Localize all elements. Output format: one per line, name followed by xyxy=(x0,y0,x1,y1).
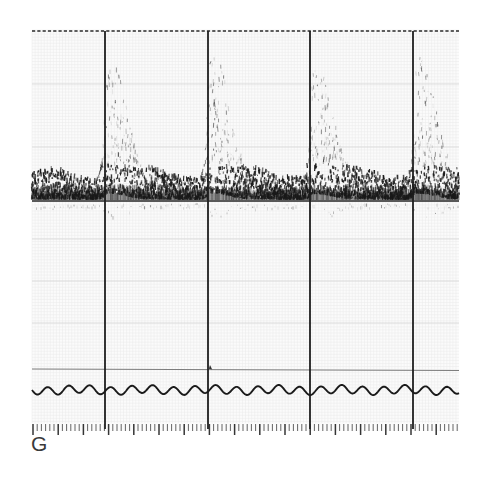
panel-label: G xyxy=(31,432,48,456)
doppler-figure: G xyxy=(0,0,485,479)
spectrum-stroke xyxy=(236,182,237,184)
spectrum-stroke xyxy=(310,180,311,183)
spectrum-stroke xyxy=(158,177,159,179)
spectrum-stroke xyxy=(418,137,419,140)
spectrum-stroke xyxy=(281,180,282,182)
spectrum-stroke xyxy=(147,183,148,184)
spectrum-stroke xyxy=(106,190,107,193)
spectrum-stroke xyxy=(126,106,127,110)
spectrum-stroke xyxy=(155,178,156,183)
spectrum-stroke xyxy=(451,176,452,179)
spectrum-stroke xyxy=(66,174,67,177)
spectrum-stroke xyxy=(452,177,453,179)
spectrum-stroke xyxy=(334,147,335,151)
spectrum-stroke xyxy=(436,179,437,182)
spectrum-stroke xyxy=(320,181,321,186)
spectrum-stroke xyxy=(371,176,372,179)
spectrum-stroke xyxy=(426,160,427,163)
spectrum-stroke xyxy=(132,180,133,185)
spectrum-stroke xyxy=(257,179,258,182)
spectrum-stroke xyxy=(37,183,38,188)
spectrum-stroke xyxy=(44,176,45,180)
spectrum-stroke xyxy=(385,180,386,183)
spectrum-stroke xyxy=(333,172,334,175)
spectrum-stroke xyxy=(164,179,165,183)
spectrum-stroke xyxy=(302,185,303,190)
spectrum-stroke xyxy=(117,174,118,179)
spectrum-stroke xyxy=(129,165,130,168)
spectrum-stroke xyxy=(167,177,168,182)
doppler-plot-svg xyxy=(0,0,485,479)
spectrum-stroke xyxy=(419,157,420,161)
spectrum-stroke xyxy=(451,170,452,172)
spectrum-stroke xyxy=(424,172,425,176)
spectrum-stroke xyxy=(347,179,348,182)
spectrum-stroke xyxy=(257,175,258,176)
spectrum-stroke xyxy=(215,104,216,107)
spectrum-stroke xyxy=(316,75,317,78)
spectrum-stroke xyxy=(380,175,381,180)
spectrum-stroke xyxy=(430,150,431,153)
spectrum-stroke xyxy=(261,181,262,186)
spectrum-stroke xyxy=(209,181,210,186)
spectrum-stroke xyxy=(99,171,100,175)
spectrum-stroke xyxy=(409,179,410,182)
spectrum-stroke xyxy=(395,183,396,184)
spectrum-stroke xyxy=(316,166,317,168)
spectrum-stroke xyxy=(337,174,338,177)
spectrum-stroke xyxy=(308,177,309,182)
spectrum-stroke xyxy=(425,76,426,80)
spectrum-stroke xyxy=(87,177,88,181)
spectrum-stroke xyxy=(150,184,151,185)
spectrum-stroke xyxy=(308,165,309,167)
spectrum-stroke xyxy=(448,167,449,170)
spectrum-stroke xyxy=(238,159,239,163)
spectrum-stroke xyxy=(49,177,50,180)
spectrum-stroke xyxy=(417,170,418,173)
spectrum-stroke xyxy=(336,156,337,160)
fine-grid xyxy=(32,31,459,423)
spectrum-stroke xyxy=(128,134,129,138)
spectrum-stroke xyxy=(378,179,379,182)
spectrum-stroke xyxy=(268,174,269,177)
spectrum-stroke xyxy=(140,172,141,175)
spectrum-stroke xyxy=(417,179,418,184)
spectrum-stroke xyxy=(328,137,329,139)
spectrum-stroke xyxy=(117,167,118,169)
spectrum-stroke xyxy=(445,187,446,192)
spectrum-stroke xyxy=(91,183,92,185)
spectrum-stroke xyxy=(334,167,335,169)
spectrum-stroke xyxy=(329,133,330,136)
spectrum-stroke xyxy=(332,180,333,182)
spectrum-stroke xyxy=(289,183,290,187)
spectrum-stroke xyxy=(459,185,460,189)
spectrum-stroke xyxy=(281,186,282,188)
spectrum-stroke xyxy=(415,157,416,159)
spectrum-stroke xyxy=(325,93,326,98)
spectrum-stroke xyxy=(320,186,321,190)
spectrum-stroke xyxy=(253,186,254,189)
spectrum-stroke xyxy=(418,180,419,184)
spectrum-stroke xyxy=(454,181,455,183)
spectrum-stroke xyxy=(326,141,327,146)
spectrum-stroke xyxy=(178,174,179,179)
spectrum-stroke xyxy=(120,159,121,161)
spectrum-stroke xyxy=(323,77,324,81)
spectrum-stroke xyxy=(168,174,169,179)
spectrum-stroke xyxy=(56,190,57,192)
spectrum-stroke xyxy=(215,142,216,147)
spectrum-stroke xyxy=(246,185,247,188)
spectrum-stroke xyxy=(63,177,64,181)
spectrum-stroke xyxy=(224,167,225,169)
spectrum-stroke xyxy=(74,179,75,182)
spectrum-stroke xyxy=(241,154,242,157)
spectrum-stroke xyxy=(418,72,419,76)
spectrum-stroke xyxy=(320,113,321,118)
tick-ruler xyxy=(33,424,457,435)
spectrum-stroke xyxy=(333,117,334,118)
spectrum-stroke xyxy=(99,179,100,182)
spectrum-stroke xyxy=(350,179,351,183)
spectrum-stroke xyxy=(438,175,439,177)
spectrum-stroke xyxy=(142,173,143,177)
spectrum-stroke xyxy=(125,142,126,146)
